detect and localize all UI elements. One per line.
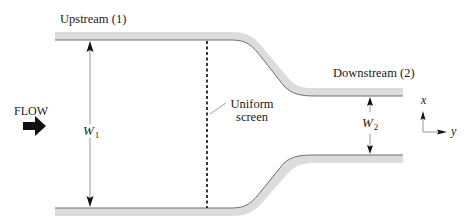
lower-wall-band bbox=[55, 155, 403, 216]
screen-leader-line bbox=[210, 103, 226, 114]
coordinate-axes bbox=[421, 111, 448, 135]
screen-label-line2: screen bbox=[228, 111, 276, 124]
w2-arrowhead-down bbox=[367, 145, 373, 154]
upstream-label: Upstream (1) bbox=[60, 13, 126, 26]
w1-symbol: W bbox=[83, 123, 94, 138]
screen-label: Uniform screen bbox=[228, 98, 276, 124]
lower-wall bbox=[55, 155, 403, 216]
axis-y-label: y bbox=[451, 125, 456, 137]
axis-x-label: x bbox=[421, 94, 426, 106]
w1-label: W1 bbox=[83, 124, 99, 140]
w1-subscript: 1 bbox=[95, 130, 100, 140]
w2-label: W2 bbox=[362, 116, 378, 132]
flow-arrow-icon bbox=[23, 116, 46, 136]
w2-symbol: W bbox=[362, 115, 373, 130]
upper-wall-band bbox=[55, 32, 403, 96]
y-axis-arrowhead bbox=[437, 130, 447, 135]
flow-label: FLOW bbox=[14, 105, 48, 117]
w2-subscript: 2 bbox=[374, 122, 379, 132]
upper-wall bbox=[55, 32, 403, 96]
downstream-label: Downstream (2) bbox=[333, 67, 415, 80]
